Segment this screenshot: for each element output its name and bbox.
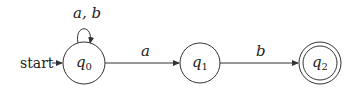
state-q2-accepting: q2 xyxy=(299,42,341,84)
diagram-canvas: start a, b q0 a q1 b q2 xyxy=(0,0,361,91)
state-q0: q0 xyxy=(63,42,105,84)
state-q1: q1 xyxy=(180,43,220,83)
automaton-diagram: start a, b q0 a q1 b q2 xyxy=(0,0,361,91)
transition-label-q0-q0: a, b xyxy=(73,4,101,22)
transition-label-q0-q1: a xyxy=(141,42,150,60)
start-label: start xyxy=(20,55,54,71)
self-loop-q0 xyxy=(77,29,90,43)
transition-label-q1-q2: b xyxy=(256,42,266,60)
